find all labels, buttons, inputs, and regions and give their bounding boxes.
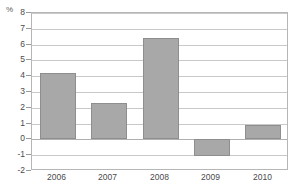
y-axis-tick-label: 4 [20,71,25,79]
x-axis-tick-label: 2010 [237,172,288,183]
y-axis-tick-label: 2 [20,103,25,111]
gridline [32,155,287,156]
bar [91,103,127,139]
y-axis-tick-label: 0 [20,134,25,142]
y-axis-tick-label: 3 [20,87,25,95]
bar [40,73,76,139]
y-axis-tick-label: 1 [20,119,25,127]
y-axis-tick-label: -1 [17,150,25,158]
plot-area [31,12,288,170]
x-axis-tick-label: 2006 [31,172,82,183]
x-axis-tick-label: 2008 [134,172,185,183]
y-axis-tick-label: 5 [20,55,25,63]
y-axis-tick-label: -2 [17,166,25,174]
y-axis-tick-label: 7 [20,24,25,32]
bar [143,38,179,139]
bar [194,139,230,156]
y-axis-tick-mark [26,170,31,171]
bar [245,125,281,139]
zero-gridline [32,139,287,140]
x-axis-tick-label: 2009 [185,172,236,183]
y-axis-tick-label: 6 [20,40,25,48]
x-axis-tick-label: 2007 [82,172,133,183]
gridline [32,13,287,14]
bar-chart: % 876543210-1-2 20062007200820092010 [0,0,302,196]
y-axis-tick-label: 8 [20,8,25,16]
gridline [32,29,287,30]
x-axis-tick-labels: 20062007200820092010 [31,172,288,188]
